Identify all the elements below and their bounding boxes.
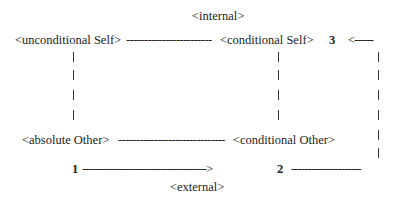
other-connector: ------------------------------ <box>118 133 225 147</box>
marker-1: 1 <box>72 162 78 176</box>
outgoing-connector: --------------------- <box>291 162 361 176</box>
right-vertical-line <box>378 70 379 80</box>
left-vertical-line <box>73 90 74 100</box>
unconditional-self-node: <unconditional Self> <box>15 33 121 47</box>
right-vertical-line <box>378 110 379 120</box>
path-connector: --------------------------------------> <box>82 162 212 176</box>
absolute-other-node: <absolute Other> <box>22 133 109 147</box>
right-vertical-line <box>378 130 379 140</box>
left-vertical-line <box>73 110 74 120</box>
middle-vertical-line <box>278 90 279 100</box>
internal-label: <internal> <box>192 9 244 23</box>
conditional-other-node: <conditional Other> <box>233 133 335 147</box>
middle-vertical-line <box>278 52 279 62</box>
marker-3: 3 <box>329 33 335 47</box>
marker-2: 2 <box>277 162 283 176</box>
middle-vertical-line <box>278 70 279 80</box>
conditional-self-node: <conditional Self> <box>220 33 314 47</box>
return-arrow: <------ <box>348 33 373 47</box>
right-vertical-line <box>378 90 379 100</box>
left-vertical-line <box>73 70 74 80</box>
right-vertical-line <box>378 52 379 62</box>
right-vertical-line <box>378 148 379 158</box>
middle-vertical-line <box>278 110 279 120</box>
left-vertical-line <box>73 52 74 62</box>
external-label: <external> <box>170 180 224 194</box>
self-connector: ------------------------ <box>126 33 212 47</box>
